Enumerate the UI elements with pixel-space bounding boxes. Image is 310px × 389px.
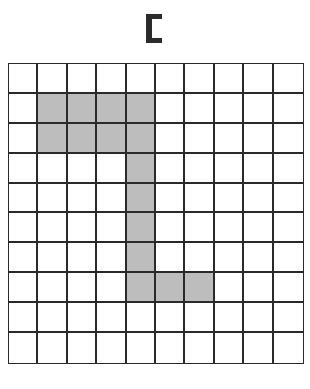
grid-cell-9-2[interactable] <box>68 333 97 363</box>
grid-cell-4-5[interactable] <box>156 184 185 214</box>
grid-cell-8-7[interactable] <box>215 303 244 333</box>
grid-cell-5-0[interactable] <box>9 213 38 243</box>
grid-cell-1-4[interactable] <box>127 94 156 124</box>
grid-cell-5-5[interactable] <box>156 213 185 243</box>
grid-cell-3-7[interactable] <box>215 154 244 184</box>
grid-cell-5-2[interactable] <box>68 213 97 243</box>
grid-cell-8-5[interactable] <box>156 303 185 333</box>
grid-cell-7-6[interactable] <box>185 273 214 303</box>
grid-cell-3-3[interactable] <box>97 154 126 184</box>
grid-cell-8-1[interactable] <box>38 303 67 333</box>
grid-cell-3-4[interactable] <box>127 154 156 184</box>
grid-cell-0-3[interactable] <box>97 64 126 94</box>
grid-cell-8-3[interactable] <box>97 303 126 333</box>
grid-cell-6-0[interactable] <box>9 243 38 273</box>
grid-cell-6-4[interactable] <box>127 243 156 273</box>
grid-cell-4-1[interactable] <box>38 184 67 214</box>
grid-cell-7-4[interactable] <box>127 273 156 303</box>
grid-cell-8-8[interactable] <box>244 303 273 333</box>
grid-cell-0-0[interactable] <box>9 64 38 94</box>
grid-cell-3-5[interactable] <box>156 154 185 184</box>
grid-cell-1-1[interactable] <box>38 94 67 124</box>
grid-cell-2-3[interactable] <box>97 124 126 154</box>
grid-cell-0-1[interactable] <box>38 64 67 94</box>
grid-cell-8-6[interactable] <box>185 303 214 333</box>
grid-cell-0-6[interactable] <box>185 64 214 94</box>
grid-cell-4-9[interactable] <box>274 184 303 214</box>
grid-cell-7-7[interactable] <box>215 273 244 303</box>
grid-cell-0-5[interactable] <box>156 64 185 94</box>
grid-cell-1-8[interactable] <box>244 94 273 124</box>
grid-cell-2-9[interactable] <box>274 124 303 154</box>
grid-cell-6-5[interactable] <box>156 243 185 273</box>
grid-cell-8-4[interactable] <box>127 303 156 333</box>
grid-cell-5-8[interactable] <box>244 213 273 243</box>
grid-cell-7-8[interactable] <box>244 273 273 303</box>
grid-cell-8-2[interactable] <box>68 303 97 333</box>
grid-cell-6-8[interactable] <box>244 243 273 273</box>
grid-cell-1-0[interactable] <box>9 94 38 124</box>
grid-cell-1-9[interactable] <box>274 94 303 124</box>
grid-cell-3-6[interactable] <box>185 154 214 184</box>
grid-cell-1-5[interactable] <box>156 94 185 124</box>
grid-cell-5-6[interactable] <box>185 213 214 243</box>
grid-cell-5-4[interactable] <box>127 213 156 243</box>
grid-cell-5-7[interactable] <box>215 213 244 243</box>
grid-cell-0-8[interactable] <box>244 64 273 94</box>
grid-cell-2-7[interactable] <box>215 124 244 154</box>
grid-cell-5-1[interactable] <box>38 213 67 243</box>
grid-cell-9-9[interactable] <box>274 333 303 363</box>
grid-cell-6-9[interactable] <box>274 243 303 273</box>
grid-cell-4-2[interactable] <box>68 184 97 214</box>
grid-cell-1-7[interactable] <box>215 94 244 124</box>
grid-cell-3-0[interactable] <box>9 154 38 184</box>
grid-cell-8-9[interactable] <box>274 303 303 333</box>
grid-cell-0-2[interactable] <box>68 64 97 94</box>
grid-cell-9-0[interactable] <box>9 333 38 363</box>
grid-cell-3-9[interactable] <box>274 154 303 184</box>
grid-cell-6-6[interactable] <box>185 243 214 273</box>
grid-cell-3-1[interactable] <box>38 154 67 184</box>
grid-cell-1-3[interactable] <box>97 94 126 124</box>
grid-cell-1-2[interactable] <box>68 94 97 124</box>
grid-cell-0-4[interactable] <box>127 64 156 94</box>
grid-cell-6-2[interactable] <box>68 243 97 273</box>
grid-cell-9-5[interactable] <box>156 333 185 363</box>
grid-cell-4-0[interactable] <box>9 184 38 214</box>
grid-cell-8-0[interactable] <box>9 303 38 333</box>
grid-cell-2-6[interactable] <box>185 124 214 154</box>
grid-cell-7-5[interactable] <box>156 273 185 303</box>
grid-cell-4-6[interactable] <box>185 184 214 214</box>
grid-cell-6-3[interactable] <box>97 243 126 273</box>
grid-cell-4-7[interactable] <box>215 184 244 214</box>
grid-cell-4-4[interactable] <box>127 184 156 214</box>
grid-cell-0-7[interactable] <box>215 64 244 94</box>
grid-cell-2-4[interactable] <box>127 124 156 154</box>
grid-cell-6-1[interactable] <box>38 243 67 273</box>
grid-cell-9-4[interactable] <box>127 333 156 363</box>
grid-cell-2-0[interactable] <box>9 124 38 154</box>
grid-cell-3-8[interactable] <box>244 154 273 184</box>
grid-cell-9-7[interactable] <box>215 333 244 363</box>
grid-cell-9-6[interactable] <box>185 333 214 363</box>
grid-cell-4-8[interactable] <box>244 184 273 214</box>
grid-cell-0-9[interactable] <box>274 64 303 94</box>
grid-cell-7-9[interactable] <box>274 273 303 303</box>
grid-cell-9-8[interactable] <box>244 333 273 363</box>
grid-cell-7-1[interactable] <box>38 273 67 303</box>
grid-cell-7-2[interactable] <box>68 273 97 303</box>
grid-cell-2-5[interactable] <box>156 124 185 154</box>
grid-cell-9-3[interactable] <box>97 333 126 363</box>
grid-cell-2-1[interactable] <box>38 124 67 154</box>
grid-cell-5-9[interactable] <box>274 213 303 243</box>
grid-cell-9-1[interactable] <box>38 333 67 363</box>
grid-cell-7-3[interactable] <box>97 273 126 303</box>
grid-cell-3-2[interactable] <box>68 154 97 184</box>
grid-cell-4-3[interactable] <box>97 184 126 214</box>
grid-cell-6-7[interactable] <box>215 243 244 273</box>
grid-cell-1-6[interactable] <box>185 94 214 124</box>
grid-cell-2-8[interactable] <box>244 124 273 154</box>
grid-cell-5-3[interactable] <box>97 213 126 243</box>
grid-cell-2-2[interactable] <box>68 124 97 154</box>
grid-cell-7-0[interactable] <box>9 273 38 303</box>
